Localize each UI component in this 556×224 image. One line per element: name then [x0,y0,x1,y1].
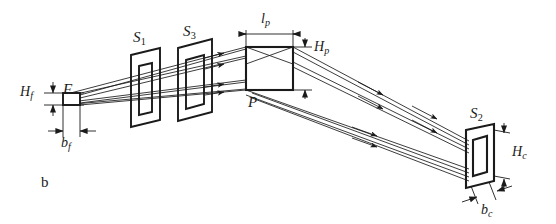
slit-S1-label: S1 [133,30,146,47]
ray-bundle-prism-to-aperture [246,47,469,181]
slit-S3-frame [178,39,212,121]
dimension-bc-marks [462,182,512,204]
dimension-lp-marks [240,30,299,47]
dimension-bf-marks [48,105,96,137]
optical-ray-diagram: S1 S3 F P S2 Hf bf lp Hp Hc bc b [0,0,556,224]
dimension-Hp-label: Hp [314,40,329,56]
prism-P-body [246,47,293,90]
slit-S2-label: S2 [470,106,483,123]
prism-P-label: P [248,95,257,110]
slit-S3-label: S3 [183,24,196,41]
figure-caption: b [41,175,49,190]
source-F-label: F [63,82,72,97]
dimension-Hc-label: Hc [512,145,527,161]
slit-S1-frame [131,48,160,127]
dimension-lp-label: lp [261,12,270,28]
ray-bundle-source-to-prism [63,47,246,105]
slit-S2-frame [466,124,494,188]
dimension-bf-label: bf [61,136,71,152]
dimension-Hf-label: Hf [20,85,33,101]
dimension-bc-label: bc [481,203,492,219]
dimension-Hc-marks [494,123,510,188]
ray-direction-arrows-outgoing [352,82,437,147]
